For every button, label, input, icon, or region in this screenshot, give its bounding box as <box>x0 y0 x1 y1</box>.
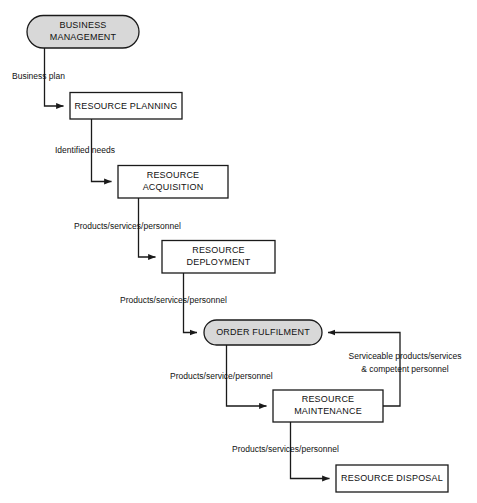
node-resource-planning[interactable]: RESOURCE PLANNING <box>70 93 182 120</box>
node-order-fulfilment-label-line1: ORDER FULFILMENT <box>216 327 310 337</box>
node-resource-deployment[interactable]: RESOURCE DEPLOYMENT <box>162 241 275 274</box>
node-resource-maintenance[interactable]: RESOURCE MAINTENANCE <box>273 390 383 422</box>
node-resource-disposal[interactable]: RESOURCE DISPOSAL <box>336 465 448 492</box>
edge-acquisition-deployment-label: Products/services/personnel <box>74 221 181 231</box>
edge-fulfilment-maintenance: Products/service/personnel <box>170 345 273 406</box>
node-order-fulfilment[interactable]: ORDER FULFILMENT <box>204 320 322 345</box>
node-business-management-label-line1: BUSINESS <box>59 20 106 30</box>
node-resource-planning-label-line1: RESOURCE PLANNING <box>75 101 178 111</box>
node-resource-deployment-label-line1: RESOURCE <box>192 245 245 255</box>
node-resource-disposal-label-line1: RESOURCE DISPOSAL <box>341 473 443 483</box>
edge-maintenance-fulfilment-label-line2: & competent personnel <box>361 364 449 374</box>
node-resource-deployment-label-line2: DEPLOYMENT <box>186 257 250 267</box>
node-resource-acquisition[interactable]: RESOURCE ACQUISITION <box>118 166 228 199</box>
node-resource-acquisition-label-line2: ACQUISITION <box>143 182 204 192</box>
edge-deployment-fulfilment-label: Products/services/personnel <box>120 295 227 305</box>
edge-maintenance-fulfilment-label-line1: Serviceable products/services <box>349 351 462 361</box>
edge-business-plan: Business plan <box>12 48 65 106</box>
flowchart-canvas: Business plan Identified needs Products/… <box>0 0 477 503</box>
edge-maintenance-disposal: Products/services/personnel <box>232 422 339 479</box>
node-business-management-label-line2: MANAGEMENT <box>50 32 117 42</box>
edge-maintenance-disposal-label: Products/services/personnel <box>232 444 339 454</box>
node-resource-acquisition-label-line1: RESOURCE <box>147 170 200 180</box>
edge-identified-needs: Identified needs <box>55 119 115 182</box>
edge-business-plan-label: Business plan <box>12 71 65 81</box>
resource-management-flowchart: Business plan Identified needs Products/… <box>0 0 477 503</box>
node-resource-maintenance-label-line2: MAINTENANCE <box>294 406 362 416</box>
edge-fulfilment-maintenance-label: Products/service/personnel <box>170 371 273 381</box>
node-business-management[interactable]: BUSINESS MANAGEMENT <box>27 16 139 49</box>
edge-identified-needs-label: Identified needs <box>55 145 115 155</box>
node-resource-maintenance-label-line1: RESOURCE <box>302 394 355 404</box>
